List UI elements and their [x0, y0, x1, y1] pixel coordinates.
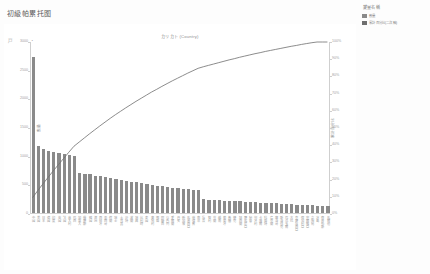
y-axis-left-tick-mark	[28, 214, 30, 215]
x-axis-tick-label: 加拿大	[78, 216, 81, 225]
x-axis-tick-label: 斯洛伐克	[279, 216, 282, 228]
x-axis-tick-label: 埃及	[202, 216, 205, 222]
x-axis-tick-label: 西班牙	[98, 216, 101, 225]
x-axis-tick-label: 愛爾蘭	[171, 216, 174, 225]
legend-item[interactable]: 數量	[362, 13, 426, 18]
legend-swatch-icon	[362, 21, 367, 25]
x-axis-tick-label: 馬爾他	[326, 216, 329, 225]
y-axis-right-tick-mark	[330, 145, 332, 146]
x-axis-tick-label: 丹麥	[176, 216, 179, 222]
y-axis-right-tick-mark	[330, 42, 332, 43]
x-axis-tick-label: 俄羅斯	[83, 216, 86, 225]
y-axis-right-tick-label: 0%	[332, 212, 337, 216]
legend-item[interactable]: 累計 百分比(二次 軸)	[362, 20, 426, 25]
x-axis-tick-label: 菲律賓	[191, 216, 194, 225]
x-axis-tick-label: 美國	[36, 216, 39, 222]
x-axis-tick-label: 紐西蘭	[238, 216, 241, 225]
x-axis-tick-label: 立陶宛	[310, 216, 313, 225]
y-axis-right-tick-label: 10%	[332, 195, 339, 199]
x-axis-tick-label: 塞爾維亞	[305, 216, 308, 228]
y-axis-right-tick-mark	[330, 162, 332, 163]
x-axis-tick-label: 瑞典	[134, 216, 137, 222]
x-axis-tick-label: 南非	[196, 216, 199, 222]
x-axis-tick-label: 智利	[207, 216, 210, 222]
y-axis-right-tick-label: 90%	[332, 57, 339, 61]
x-axis-tick-label: 卡塔爾	[259, 216, 262, 225]
x-axis-tick-label: 厄瓜多爾	[284, 216, 287, 228]
y-axis-right-tick-mark	[330, 128, 332, 129]
x-axis-tick-label: 波蘭	[129, 216, 132, 222]
y-axis-right-tick-label: 50%	[332, 126, 339, 130]
y-axis-right-tick-mark	[330, 197, 332, 198]
x-axis-tick-label: 葡萄牙	[222, 216, 225, 225]
legend: 變量名稱 數量累計 百分比(二次 軸)	[362, 4, 426, 34]
legend-items: 數量累計 百分比(二次 軸)	[362, 13, 426, 25]
x-axis-tick-label: 阿聯酋	[160, 216, 163, 225]
x-axis-tick-label: 摩洛哥	[274, 216, 277, 225]
x-axis-tick-label: 英國	[57, 216, 60, 222]
x-axis-tick-label: 荷蘭	[109, 216, 112, 222]
chart-card: 戸 ・ カリカト (Country) 數量 累計百分比 050010001500…	[4, 24, 356, 270]
x-axis-tick-label: 意大利	[67, 216, 70, 225]
x-axis-tick-label: 法國	[62, 216, 65, 222]
y-axis-right-tick-label: 60%	[332, 109, 339, 113]
y-axis-left-tick-label: 3000	[20, 40, 28, 44]
x-axis-tick-label: 韓國	[88, 216, 91, 222]
y-axis-right-tick-mark	[330, 94, 332, 95]
y-axis-right-tick-label: 100%	[332, 40, 341, 44]
y-axis-right-tick-label: 80%	[332, 74, 339, 78]
x-axis-tick-label: 科威特	[264, 216, 267, 225]
y-axis-left-tick-label: 1000	[20, 155, 28, 159]
x-axis-tick-label: 羅馬尼亞	[243, 216, 246, 228]
plot-area: 數量 累計百分比 050010001500200025003000 0%10%2…	[30, 42, 330, 214]
x-axis-tick-label: 馬來西亞	[186, 216, 189, 228]
x-axis-tick-label: 挪威	[155, 216, 158, 222]
x-axis-tick-label: 古巴	[290, 216, 293, 222]
chart-subtitle: カリカト (Country)	[4, 33, 356, 39]
x-axis-tick-label: 芬蘭	[212, 216, 215, 222]
x-axis-tick-label: 秘魯	[248, 216, 251, 222]
x-axis-tick-label: 比利時	[140, 216, 143, 225]
x-axis-tick-label: 匈牙利	[253, 216, 256, 225]
x-axis-tick-label: 澳洲	[93, 216, 96, 222]
x-axis-tick-label: 克羅埃西亞	[295, 216, 298, 231]
y-axis-right-tick-mark	[330, 111, 332, 112]
x-axis-tick-label: 德國	[46, 216, 49, 222]
x-axis-tick-label: 賽普勒斯	[321, 216, 324, 228]
x-axis-tick-label: 以色列	[165, 216, 168, 225]
y-axis-left-tick-label: 2000	[20, 97, 28, 101]
y-axis-left-tick-label: 1500	[20, 126, 28, 130]
y-axis-right-tick-mark	[330, 76, 332, 77]
x-axis-tick-label: 墨西哥	[103, 216, 106, 225]
legend-title: 變量名稱	[363, 4, 426, 10]
x-axis-labels: 中國美國日本德國印度英國法國意大利巴西加拿大俄羅斯韓國澳洲西班牙墨西哥荷蘭瑞士土…	[30, 216, 330, 264]
legend-item-label: 數量	[369, 13, 375, 18]
y-axis-right-tick-mark	[330, 180, 332, 181]
y-axis-right-tick-mark	[330, 214, 332, 215]
x-axis-tick-label: 印度	[52, 216, 55, 222]
y-axis-left-tick-label: 2500	[20, 69, 28, 73]
legend-swatch-icon	[362, 14, 367, 18]
legend-item-label: 累計 百分比(二次 軸)	[369, 20, 397, 25]
x-axis-tick-label: 越南	[217, 216, 220, 222]
page-title: 初級帕累托图	[7, 8, 51, 18]
x-axis-tick-label: 日本	[41, 216, 44, 222]
y-axis-right-tick-label: 20%	[332, 178, 339, 182]
y-axis-right-tick-label: 40%	[332, 143, 339, 147]
x-axis-tick-label: 希臘	[228, 216, 231, 222]
x-axis-tick-label: 瑞士	[114, 216, 117, 222]
y-axis-right-tick-label: 70%	[332, 92, 339, 96]
x-axis-tick-label: 烏克蘭	[269, 216, 272, 225]
pareto-chart-page: 初級帕累托图 戸 ・ カリカト (Country) 數量 累計百分比 05001…	[0, 0, 430, 274]
x-axis-tick-label: 奧地利	[150, 216, 153, 225]
y-axis-right-tick-mark	[330, 59, 332, 60]
x-axis-tick-label: 泰國	[145, 216, 148, 222]
cumulative-line	[33, 42, 328, 198]
x-axis-tick-label: 沙特	[124, 216, 127, 222]
y-axis-right-tick-label: 30%	[332, 160, 339, 164]
x-axis-tick-label: 巴西	[72, 216, 75, 222]
x-axis-tick-label: 保加利亞	[300, 216, 303, 228]
cumulative-line-series	[30, 42, 330, 214]
x-axis-tick-label: 土耳其	[119, 216, 122, 225]
x-axis-tick-label: 中國	[31, 216, 34, 222]
